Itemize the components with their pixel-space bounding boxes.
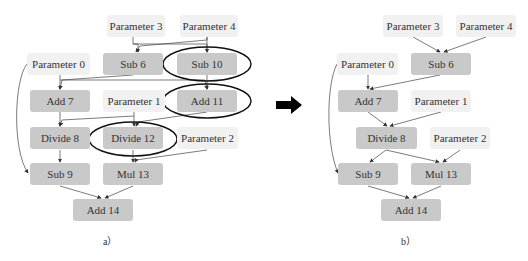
- node-a-sub-10: Sub 10: [177, 53, 237, 75]
- node-b-sub-6: Sub 6: [411, 53, 471, 75]
- node-a-divide-8: Divide 8: [30, 127, 90, 149]
- node-a-add-11: Add 11: [177, 90, 237, 112]
- node-a-mul-13: Mul 13: [103, 163, 163, 185]
- right-arrow-icon: [276, 96, 302, 114]
- node-a-parameter-4: Parameter 4: [180, 15, 238, 37]
- node-a-parameter-0: Parameter 0: [27, 53, 90, 75]
- node-b-parameter-1: Parameter 1: [411, 90, 471, 112]
- node-b-mul-13: Mul 13: [411, 163, 471, 185]
- node-b-divide-8: Divide 8: [356, 127, 417, 149]
- node-a-parameter-1: Parameter 1: [103, 90, 165, 112]
- node-a-parameter-2: Parameter 2: [177, 127, 238, 149]
- node-a-add-14: Add 14: [73, 199, 133, 221]
- node-a-add-7: Add 7: [30, 90, 90, 112]
- node-b-sub-9: Sub 9: [338, 163, 398, 185]
- node-a-parameter-3: Parameter 3: [107, 15, 165, 37]
- caption-a: a）: [103, 233, 117, 248]
- node-b-parameter-0: Parameter 0: [337, 53, 398, 75]
- node-a-sub-6: Sub 6: [103, 53, 163, 75]
- node-b-parameter-3: Parameter 3: [383, 15, 443, 37]
- node-b-parameter-2: Parameter 2: [430, 127, 490, 149]
- node-b-parameter-4: Parameter 4: [456, 15, 516, 37]
- node-a-sub-9: Sub 9: [30, 163, 90, 185]
- node-a-divide-12: Divide 12: [103, 127, 163, 149]
- node-b-add-7: Add 7: [338, 90, 398, 112]
- caption-b: b）: [401, 233, 416, 248]
- node-b-add-14: Add 14: [381, 199, 441, 221]
